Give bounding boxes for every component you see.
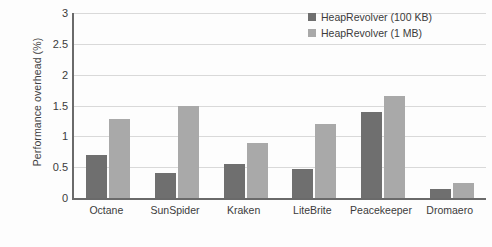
y-tick-label: 0 (34, 192, 68, 204)
bar (247, 143, 268, 199)
y-tick-label: 2.5 (34, 38, 68, 50)
legend-label: HeapRevolver (100 KB) (321, 11, 432, 23)
x-tick-label: Peacekeeper (350, 204, 412, 216)
bar (361, 112, 382, 198)
bar (292, 169, 313, 198)
legend-item[interactable]: HeapRevolver (100 KB) (308, 9, 488, 24)
bar (109, 119, 130, 198)
bar (453, 183, 474, 198)
x-tick-label: Dromaero (426, 204, 473, 216)
y-tick-label: 1.5 (34, 100, 68, 112)
y-tick-label: 3 (34, 7, 68, 19)
legend-label: HeapRevolver (1 MB) (321, 27, 422, 39)
bar-chart: Performance overhead (%) 00.511.522.53 O… (0, 0, 492, 247)
bar (315, 124, 336, 198)
y-axis-tick-labels: 00.511.522.53 (30, 0, 68, 247)
x-tick-label: SunSpider (150, 204, 199, 216)
y-tick-label: 1 (34, 130, 68, 142)
x-tick-label: Octane (89, 204, 123, 216)
bar (430, 189, 451, 198)
bar (155, 173, 176, 198)
bar (86, 155, 107, 198)
legend-swatch-icon (308, 29, 316, 37)
legend-swatch-icon (308, 13, 316, 21)
bar (384, 96, 405, 198)
x-axis-category-labels: OctaneSunSpiderKrakenLiteBritePeacekeepe… (72, 204, 486, 230)
bar-group (224, 13, 268, 198)
x-axis-line (72, 198, 486, 200)
x-tick-label: LiteBrite (293, 204, 332, 216)
legend-item[interactable]: HeapRevolver (1 MB) (308, 25, 488, 40)
x-tick-label: Kraken (227, 204, 260, 216)
legend: HeapRevolver (100 KB)HeapRevolver (1 MB) (308, 9, 488, 41)
bar (178, 106, 199, 199)
bar-group (86, 13, 130, 198)
bar-group (155, 13, 199, 198)
y-tick-label: 2 (34, 69, 68, 81)
y-tick-label: 0.5 (34, 161, 68, 173)
bar (224, 164, 245, 198)
